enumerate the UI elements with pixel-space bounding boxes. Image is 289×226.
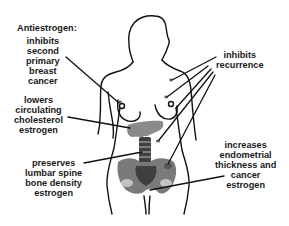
label-line: lumbar spine (25, 168, 82, 178)
left-nipple (120, 104, 125, 109)
label-line: cholesterol (14, 115, 63, 125)
label-line: cancer (215, 170, 276, 180)
label-line: inhibits (26, 36, 60, 46)
label-line: estrogen (215, 180, 276, 190)
label-line: recurrence (216, 60, 264, 70)
label-breast-cancer: inhibits second primary breast cancer (26, 36, 60, 86)
label-line: bone density (25, 178, 82, 188)
left-arm-outline (108, 92, 113, 138)
label-line: cancer (26, 76, 60, 86)
head-outline (129, 16, 170, 62)
label-line: estrogen (25, 188, 82, 198)
label-line: preserves (25, 158, 82, 168)
label-recurrence: inhibits recurrence (216, 50, 264, 70)
label-line: endometrial (215, 150, 276, 160)
label-line: lowers (14, 95, 63, 105)
organs (117, 79, 176, 194)
liver-shape (127, 121, 163, 137)
label-line: estrogen (14, 125, 63, 135)
right-torso-outline (176, 108, 189, 214)
label-line: thickness and (215, 160, 276, 170)
right-breast-outline (155, 105, 177, 119)
label-line: circulating (14, 105, 63, 115)
antiestrogen-title: Antiestrogen: (17, 23, 77, 33)
leader-recurrence-2 (167, 66, 208, 97)
leader-breast-cancer (66, 57, 119, 103)
label-bone: preserves lumbar spine bone density estr… (25, 158, 82, 198)
label-line: inhibits (216, 50, 264, 60)
left-hip-socket (121, 179, 133, 187)
label-line: primary (26, 56, 60, 66)
lumbar-spine-shape (139, 137, 151, 163)
label-endometrium: increases endometrial thickness and canc… (215, 140, 276, 190)
label-line: increases (215, 140, 276, 150)
crotch-outline (144, 196, 150, 214)
label-line: breast (26, 66, 60, 76)
right-nipple (169, 102, 174, 107)
label-cholesterol: lowers circulating cholesterol estrogen (14, 95, 63, 135)
label-line: second (26, 46, 60, 56)
